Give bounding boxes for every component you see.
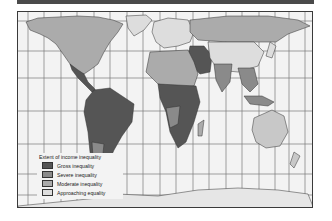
australia xyxy=(252,110,288,148)
legend-label: Approaching equality xyxy=(57,190,105,196)
legend-title: Extent of income inequality xyxy=(39,154,121,161)
legend-label: Severe inequality xyxy=(57,172,97,178)
header-bar xyxy=(17,0,314,4)
legend-item-approaching: Approaching equality xyxy=(39,188,121,197)
north-america xyxy=(26,16,123,74)
legend-item-moderate: Moderate inequality xyxy=(39,179,121,188)
swatch-moderate xyxy=(42,180,53,187)
madagascar xyxy=(198,120,204,136)
southeast-asia xyxy=(238,68,258,92)
japan xyxy=(266,42,276,58)
india xyxy=(214,64,232,92)
swatch-approaching xyxy=(42,189,53,196)
legend-item-gross: Gross inequality xyxy=(39,161,121,170)
legend-item-severe: Severe inequality xyxy=(39,170,121,179)
africa-north xyxy=(146,50,198,88)
new-zealand xyxy=(290,152,300,168)
greenland xyxy=(126,15,152,36)
legend-label: Moderate inequality xyxy=(57,181,102,187)
north-asia xyxy=(190,16,310,42)
indonesia xyxy=(244,96,274,106)
legend-label: Gross inequality xyxy=(57,163,94,169)
europe xyxy=(152,18,194,48)
swatch-severe xyxy=(42,171,53,178)
map-legend: Extent of income inequality Gross inequa… xyxy=(37,153,123,199)
world-map: Extent of income inequality Gross inequa… xyxy=(17,11,313,208)
swatch-gross xyxy=(42,162,53,169)
